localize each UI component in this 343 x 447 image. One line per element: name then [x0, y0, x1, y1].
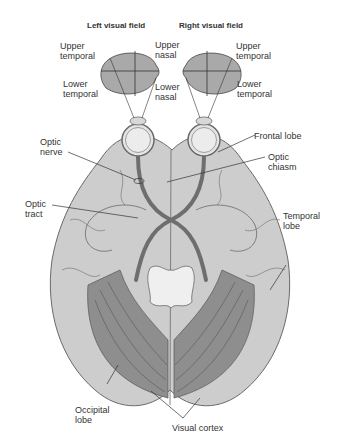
midbrain-section — [148, 266, 195, 308]
label-lower-temporal-left: Lower temporal — [63, 79, 98, 99]
label-optic-chiasm: Optic chiasm — [268, 152, 297, 172]
left-visual-field-header: Left visual field — [87, 21, 145, 30]
label-occipital-lobe: Occipital lobe — [75, 405, 110, 425]
label-upper-temporal-left: Upper temporal — [60, 41, 95, 61]
label-visual-cortex: Visual cortex — [172, 423, 223, 433]
label-upper-temporal-right: Upper temporal — [236, 41, 271, 61]
visual-pathway-diagram: Left visual field Right visual field Upp… — [0, 0, 343, 447]
label-lower-temporal-right: Lower temporal — [237, 79, 272, 99]
label-temporal-lobe: Temporal lobe — [283, 211, 320, 231]
right-visual-field-header: Right visual field — [179, 21, 243, 30]
label-optic-nerve: Optic nerve — [40, 137, 63, 157]
label-frontal-lobe: Frontal lobe — [254, 131, 302, 141]
label-upper-nasal: Upper nasal — [155, 40, 180, 60]
label-lower-nasal: Lower nasal — [155, 82, 180, 102]
label-optic-tract: Optic tract — [25, 199, 46, 219]
